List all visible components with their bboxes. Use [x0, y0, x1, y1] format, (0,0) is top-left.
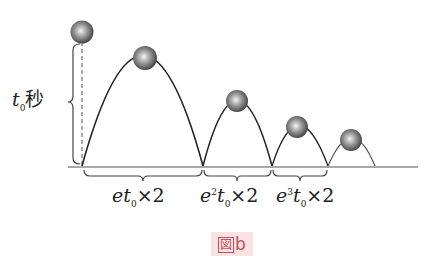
figure-caption: 図b	[211, 232, 253, 256]
height-brace	[68, 44, 80, 164]
ball-initial	[71, 21, 94, 44]
interval-label-3: e3t0×2	[276, 184, 334, 209]
interval-label-1: et0×2	[112, 184, 165, 209]
interval-brace-3	[273, 170, 327, 181]
ball-bounce-1	[133, 46, 157, 70]
interval-brace-2	[204, 170, 271, 181]
figure-caption-kanji: 図	[218, 237, 234, 253]
ball-bounce-4	[340, 129, 362, 151]
interval-brace-1	[84, 170, 202, 181]
ball-bounce-3	[286, 116, 308, 138]
bounce-arc-1	[82, 56, 203, 167]
height-label: t0秒	[12, 84, 44, 113]
bouncing-ball-diagram	[0, 0, 439, 271]
height-unit: 秒	[25, 88, 44, 110]
height-var: t	[12, 88, 20, 110]
interval-label-2: e2t0×2	[200, 184, 258, 209]
ball-bounce-2	[226, 90, 248, 112]
figure-caption-letter: b	[235, 234, 246, 254]
